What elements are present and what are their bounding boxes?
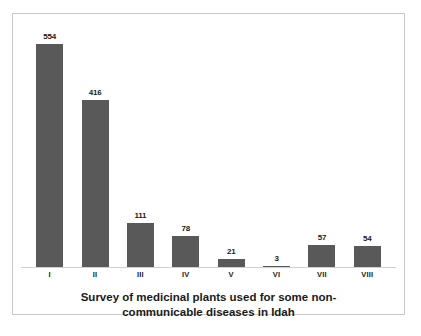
- bar-column: 57: [302, 14, 342, 268]
- bar-column: 21: [211, 14, 251, 268]
- x-tick-label: IV: [166, 270, 206, 286]
- bar-column: 554: [30, 14, 70, 268]
- chart-title: Survey of medicinal plants used for some…: [33, 290, 384, 320]
- bar-column: 54: [347, 14, 387, 268]
- x-axis-tick-labels: I II III IV V VI VII VIII: [27, 270, 390, 286]
- bar-rect: [308, 245, 335, 268]
- bar-value-label: 554: [43, 33, 56, 41]
- bar-value-label: 416: [89, 89, 102, 97]
- bar-value-label: 57: [318, 234, 327, 242]
- bar-value-label: 3: [274, 255, 278, 263]
- bar-column: 78: [166, 14, 206, 268]
- chart-title-line-2: communicable diseases in Idah: [33, 305, 384, 320]
- x-tick-label: I: [30, 270, 70, 286]
- bar-value-label: 78: [182, 225, 191, 233]
- bar-rect: [127, 223, 154, 268]
- bar-rect: [82, 100, 109, 268]
- plot-area: 554 416 111 78 21 3: [13, 14, 404, 268]
- x-tick-label: VII: [302, 270, 342, 286]
- bar-value-label: 21: [227, 248, 236, 256]
- x-axis-baseline: [21, 267, 396, 268]
- bar-rect: [36, 44, 63, 268]
- bar-value-label: 54: [363, 235, 372, 243]
- bar-column: 111: [120, 14, 160, 268]
- x-tick-label: III: [120, 270, 160, 286]
- bar-value-label: 111: [135, 212, 147, 220]
- bars-group: 554 416 111 78 21 3: [27, 14, 390, 268]
- x-tick-label: II: [75, 270, 115, 286]
- bar-rect: [354, 246, 381, 268]
- x-tick-label: VI: [257, 270, 297, 286]
- chart-title-line-1: Survey of medicinal plants used for some…: [33, 290, 384, 305]
- bar-column: 3: [257, 14, 297, 268]
- x-tick-label: VIII: [347, 270, 387, 286]
- chart-container: 554 416 111 78 21 3: [12, 13, 405, 315]
- bar-column: 416: [75, 14, 115, 268]
- x-tick-label: V: [211, 270, 251, 286]
- bar-rect: [172, 236, 199, 268]
